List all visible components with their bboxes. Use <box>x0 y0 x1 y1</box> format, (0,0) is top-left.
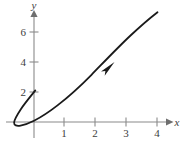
x-axis-arrowhead <box>166 118 174 125</box>
x-axis-label: x <box>174 116 180 128</box>
x-tick-label-2: 2 <box>92 127 98 139</box>
y-axis-label: y <box>31 0 37 11</box>
x-tick-label-3: 3 <box>123 127 129 139</box>
y-tick-label-6: 6 <box>21 26 27 38</box>
coordinate-plot: 1 2 3 4 2 4 6 x y <box>0 0 185 144</box>
y-tick-label-4: 4 <box>21 56 27 68</box>
graph-figure: 1 2 3 4 2 4 6 x y <box>0 0 185 144</box>
y-tick-label-2: 2 <box>21 86 27 98</box>
parametric-curve-path <box>14 12 157 126</box>
x-tick-label-4: 4 <box>154 127 160 139</box>
curve-group <box>14 12 157 126</box>
x-tick-label-1: 1 <box>61 127 67 139</box>
y-axis-arrowhead <box>30 10 37 17</box>
